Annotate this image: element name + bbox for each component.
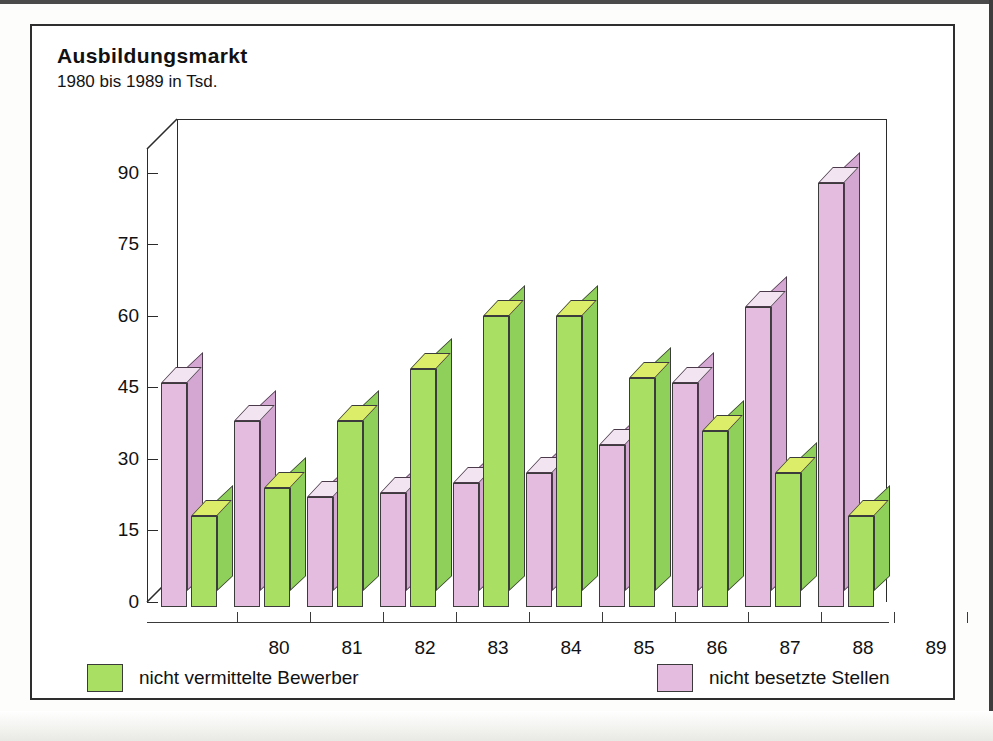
bar-82-nicht-vermittelte-bewerber <box>337 421 363 607</box>
page-edge-right <box>989 0 993 741</box>
bar-front-face <box>629 378 655 607</box>
bar-side-face <box>509 285 525 591</box>
bar-84-nicht-vermittelte-bewerber <box>483 316 509 607</box>
legend-swatch-stellen <box>657 664 693 692</box>
chart-title: Ausbildungsmarkt <box>57 44 248 68</box>
bar-81-nicht-vermittelte-bewerber <box>264 488 290 607</box>
legend-item-stellen: nicht besetzte Stellen <box>657 664 890 692</box>
bar-side-face <box>582 285 598 591</box>
bar-front-face <box>453 483 479 607</box>
bar-front-face <box>380 493 406 607</box>
bar-front-face <box>410 369 436 607</box>
bar-front-face <box>745 307 771 607</box>
legend-item-bewerber: nicht vermittelte Bewerber <box>87 664 359 692</box>
legend: nicht vermittelte Bewerbernicht besetzte… <box>87 664 937 706</box>
bar-front-face <box>526 473 552 607</box>
bar-front-face <box>161 383 187 607</box>
plot-area: 0153045607590 80818283848586878889 <box>57 111 929 651</box>
bar-81-nicht-besetzte-stellen <box>234 421 260 607</box>
bar-front-face <box>702 431 728 607</box>
bar-front-face <box>818 183 844 607</box>
bar-front-face <box>337 421 363 607</box>
bar-88-nicht-vermittelte-bewerber <box>775 473 801 607</box>
x-axis-tick <box>967 612 968 623</box>
bars-layer <box>57 111 929 651</box>
chart-subtitle: 1980 bis 1989 in Tsd. <box>57 72 217 92</box>
bar-side-face <box>436 338 452 591</box>
page-edge-bottom <box>0 711 993 741</box>
bar-87-nicht-vermittelte-bewerber <box>702 431 728 607</box>
bar-85-nicht-besetzte-stellen <box>526 473 552 607</box>
bar-front-face <box>775 473 801 607</box>
bar-side-face <box>655 347 671 591</box>
bar-front-face <box>848 516 874 607</box>
bar-front-face <box>191 516 217 607</box>
bar-front-face <box>234 421 260 607</box>
bar-82-nicht-besetzte-stellen <box>307 497 333 607</box>
legend-label-stellen: nicht besetzte Stellen <box>709 667 890 689</box>
bar-front-face <box>672 383 698 607</box>
page-edge-top <box>0 0 993 4</box>
bar-88-nicht-besetzte-stellen <box>745 307 771 607</box>
bar-80-nicht-vermittelte-bewerber <box>191 516 217 607</box>
bar-front-face <box>264 488 290 607</box>
bar-89-nicht-vermittelte-bewerber <box>848 516 874 607</box>
bar-83-nicht-vermittelte-bewerber <box>410 369 436 607</box>
bar-front-face <box>556 316 582 607</box>
bar-86-nicht-vermittelte-bewerber <box>629 378 655 607</box>
legend-swatch-bewerber <box>87 664 123 692</box>
bar-83-nicht-besetzte-stellen <box>380 493 406 607</box>
bar-side-face <box>363 390 379 591</box>
bar-80-nicht-besetzte-stellen <box>161 383 187 607</box>
legend-label-bewerber: nicht vermittelte Bewerber <box>139 667 359 689</box>
bar-front-face <box>483 316 509 607</box>
bar-front-face <box>307 497 333 607</box>
bar-85-nicht-vermittelte-bewerber <box>556 316 582 607</box>
bar-89-nicht-besetzte-stellen <box>818 183 844 607</box>
bar-87-nicht-besetzte-stellen <box>672 383 698 607</box>
bar-86-nicht-besetzte-stellen <box>599 445 625 607</box>
chart-frame: Ausbildungsmarkt 1980 bis 1989 in Tsd. 0… <box>30 24 955 700</box>
bar-84-nicht-besetzte-stellen <box>453 483 479 607</box>
bar-front-face <box>599 445 625 607</box>
scanned-page: Ausbildungsmarkt 1980 bis 1989 in Tsd. 0… <box>0 0 993 741</box>
